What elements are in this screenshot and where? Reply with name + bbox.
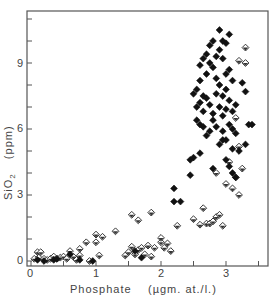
filled-diamond-point [232, 101, 239, 108]
filled-diamond-point [213, 123, 220, 130]
x-tick-1: 1 [93, 267, 99, 279]
filled-diamond-point [200, 108, 207, 115]
filled-diamond-point [216, 82, 223, 89]
y-tick-6: 6 [17, 122, 23, 134]
filled-diamond-point [229, 77, 236, 84]
filled-diamond-point [219, 128, 226, 135]
filled-diamond-point [213, 75, 220, 82]
filled-diamond-point [213, 53, 220, 60]
filled-diamond-point [242, 88, 249, 95]
filled-diamond-point [219, 93, 226, 100]
x-tick-3: 3 [223, 267, 229, 279]
y-axis-label-sub: 2 [8, 173, 17, 178]
filled-diamond-point [239, 79, 246, 86]
plot-frame [27, 11, 268, 266]
filled-diamond-point [216, 46, 223, 53]
filled-diamond-point [226, 97, 233, 104]
filled-diamond-point [223, 106, 230, 113]
y-axis-label: SiO2 (ppm) [2, 125, 17, 200]
y-tick-3: 3 [17, 188, 23, 200]
x-tick-2: 2 [158, 267, 164, 279]
filled-diamond-point [226, 31, 233, 38]
filled-diamond-point [216, 104, 223, 111]
filled-diamond-point [210, 117, 217, 124]
x-tick-0: 0 [27, 267, 33, 279]
scatter-plot [0, 0, 278, 302]
filled-diamond-point [226, 163, 233, 170]
x-axis-label: Phosphate [70, 283, 132, 295]
y-axis-unit: (ppm) [2, 125, 14, 159]
y-tick-0: 0 [17, 254, 23, 266]
filled-diamond-point [213, 90, 220, 97]
filled-diamond-point [187, 172, 194, 179]
filled-diamond-point [203, 71, 210, 78]
y-axis-label-main: SiO [2, 179, 14, 200]
filled-diamond-point [206, 101, 213, 108]
filled-diamond-point [197, 62, 204, 69]
filled-diamond-point [216, 27, 223, 34]
filled-diamond-point [219, 112, 226, 119]
filled-diamond-point [210, 110, 217, 117]
filled-diamond-point [171, 185, 178, 192]
filled-diamond-point [177, 198, 184, 205]
filled-diamond-point [236, 148, 243, 155]
filled-diamond-point [219, 55, 226, 62]
y-tick-9: 9 [17, 57, 23, 69]
filled-diamond-point [171, 198, 178, 205]
filled-diamond-point [229, 108, 236, 115]
filled-diamond-point [223, 86, 230, 93]
filled-diamond-point [197, 150, 204, 157]
x-axis-unit: (µgm. at./l.) [148, 283, 217, 295]
filled-diamond-point [242, 141, 249, 148]
filled-diamond-point [229, 145, 236, 152]
filled-diamond-point [197, 77, 204, 84]
